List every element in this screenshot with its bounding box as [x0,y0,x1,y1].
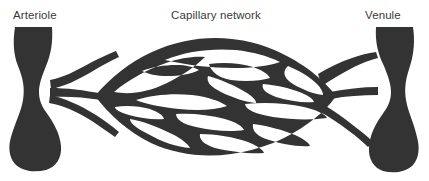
capillary-branch-upper-right [318,52,378,86]
venule-vessel [369,27,419,172]
capillary-branch-lower-right [318,104,373,147]
capillary-branch-middle-right [330,87,378,99]
capillary-network-mesh [95,38,336,155]
vessel-diagram-svg [0,0,429,181]
capillary-network-figure: Arteriole Capillary network Venule [0,0,429,181]
